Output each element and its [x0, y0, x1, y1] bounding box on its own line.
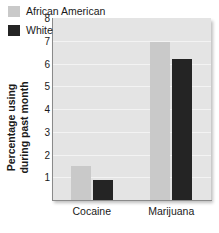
legend-label-white: White — [26, 24, 53, 36]
legend-item-african-american: African American — [8, 3, 105, 19]
legend-label-african-american: African American — [26, 5, 105, 17]
x-axis-line — [52, 200, 212, 201]
bar-cocaine-white — [93, 180, 113, 200]
x-axis-tick-label: Marijuana — [148, 205, 194, 217]
bar-cocaine-african-american — [71, 166, 91, 200]
y-axis-tick-label: 6 — [34, 58, 50, 69]
y-axis-tick-label: 4 — [34, 104, 50, 115]
y-axis-tick-label: 5 — [34, 81, 50, 92]
legend-item-white: White — [8, 22, 105, 38]
legend-swatch-white — [8, 25, 20, 36]
y-axis-title-line-2: during past month — [17, 81, 30, 173]
bar-marijuana-african-american — [150, 42, 170, 200]
x-axis-tick-label: Cocaine — [72, 205, 111, 217]
bar-chart-figure: Percentage using during past month 12345… — [0, 0, 219, 233]
legend: African American White — [8, 3, 105, 41]
y-axis-line — [52, 18, 53, 201]
x-axis-tick-labels: CocaineMarijuana — [52, 205, 212, 225]
legend-swatch-african-american — [8, 6, 20, 17]
y-axis-tick-label: 3 — [34, 126, 50, 137]
plot-area — [52, 18, 211, 200]
y-axis-title-line-1: Percentage using — [5, 81, 18, 173]
y-axis-tick-label: 2 — [34, 149, 50, 160]
bar-marijuana-white — [172, 59, 192, 200]
y-axis-tick-label: 1 — [34, 172, 50, 183]
y-axis-title: Percentage using during past month — [0, 52, 34, 202]
